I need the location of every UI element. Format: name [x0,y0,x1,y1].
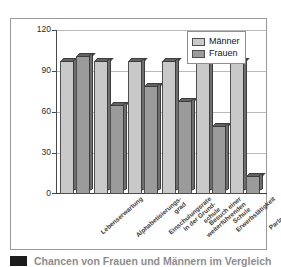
bar-group [94,30,128,194]
bar-men [196,61,210,194]
bar-women [144,86,158,194]
y-tick-label-120: 120 [25,25,51,34]
bar-side-face [259,173,263,191]
bar-side-face [89,53,93,191]
bar-women [246,176,260,194]
bar-men [60,61,74,194]
bar-men [128,61,142,194]
bar-group [60,30,94,194]
figure-frame: 120 90 60 30 0 [10,18,267,250]
legend-item-maenner: Männer [192,36,240,47]
legend-label-frauen: Frauen [209,49,238,58]
bar-women [178,101,192,194]
bar-side-face [157,83,161,191]
bar-side-face [243,58,247,191]
bar-men [162,61,176,194]
bar-women [110,105,124,194]
caption-badge-icon [10,256,27,266]
bar-men [94,61,108,194]
figure-caption: Chancen von Frauen und Männern im Vergle… [10,256,281,267]
y-axis-labels: 120 90 60 30 0 [23,19,51,249]
bar-side-face [191,98,195,191]
bar-side-face [225,123,229,191]
x-axis-category-labels: LebenserwartungAlphabetisierungs-gradEin… [56,195,268,261]
bar-women [212,126,226,194]
bar-group [128,30,162,194]
bar-side-face [123,102,127,191]
legend-swatch-icon-maenner [192,38,205,46]
y-tick-label-30: 30 [25,148,51,157]
chart-screenshot: 120 90 60 30 0 [0,0,281,267]
legend-item-frauen: Frauen [192,48,240,59]
y-tick-label-90: 90 [25,66,51,75]
bar-women [76,56,90,194]
chart-legend: Männer Frauen [187,31,246,64]
bar-men [230,61,244,194]
caption-text: Chancen von Frauen und Männern im Vergle… [34,256,271,267]
legend-swatch-icon-frauen [192,50,205,58]
legend-label-maenner: Männer [209,37,240,46]
y-tick-label-0: 0 [25,189,51,198]
y-tick-label-60: 60 [25,107,51,116]
